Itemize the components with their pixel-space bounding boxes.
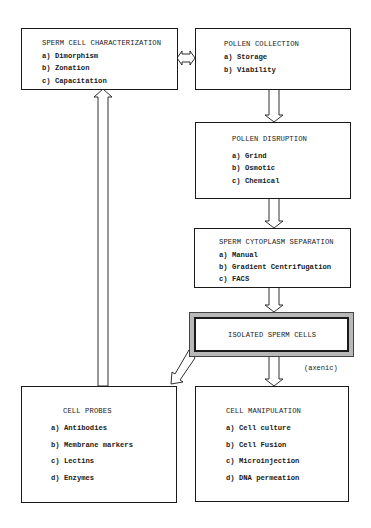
- list-item: a) Cell culture: [226, 424, 291, 432]
- cell-manipulation-box: CELL MANIPULATION a) Cell culture b) Cel…: [195, 386, 349, 502]
- list-item: a) Storage: [224, 53, 267, 61]
- list-item: b) Viability: [224, 66, 276, 74]
- list-item: c) Microinjection: [226, 457, 299, 465]
- down-arrow-icon: [265, 89, 283, 122]
- isolated-sperm-cells-frame: ISOLATED SPERM CELLS: [189, 312, 354, 357]
- box-title: POLLEN COLLECTION: [224, 40, 299, 48]
- list-item: b) Gradient Centrifugation: [219, 263, 331, 271]
- box-title: CELL PROBES: [63, 407, 112, 415]
- list-item: b) Osmotic: [232, 164, 275, 172]
- down-arrow-icon: [265, 198, 283, 228]
- list-item: d) DNA permeation: [226, 474, 299, 482]
- list-item: c) Lectins: [51, 457, 94, 465]
- sperm-cell-characterization-box: SPERM CELL CHARACTERIZATION a) Dimorphis…: [21, 28, 178, 90]
- sperm-cytoplasm-separation-box: SPERM CYTOPLASM SEPARATION a) Manual b) …: [194, 228, 351, 288]
- list-item: c) Chemical: [232, 177, 279, 185]
- list-item: c) FACS: [219, 275, 249, 283]
- list-item: d) Enzymes: [51, 474, 94, 482]
- box-title: SPERM CELL CHARACTERIZATION: [42, 39, 161, 47]
- list-item: a) Grind: [232, 152, 267, 160]
- isolated-sperm-cells-box: ISOLATED SPERM CELLS: [194, 317, 349, 352]
- list-item: b) Membrane markers: [51, 441, 133, 449]
- list-item: a) Antibodies: [51, 424, 107, 432]
- axenic-label: (axenic): [304, 364, 338, 372]
- down-arrow-icon: [265, 356, 283, 386]
- box-title: SPERM CYTOPLASM SEPARATION: [219, 238, 334, 246]
- list-item: b) Zonation: [42, 64, 89, 72]
- bidirectional-arrow-icon: [177, 51, 195, 65]
- box-title: CELL MANIPULATION: [226, 407, 301, 415]
- list-item: b) Cell Fusion: [226, 441, 286, 449]
- down-arrow-icon: [265, 287, 283, 312]
- pollen-collection-box: POLLEN COLLECTION a) Storage b) Viabilit…: [195, 28, 351, 90]
- up-arrow-icon: [94, 89, 112, 386]
- cell-probes-box: CELL PROBES a) Antibodies b) Membrane ma…: [21, 386, 177, 503]
- list-item: a) Manual: [219, 251, 258, 259]
- box-title: ISOLATED SPERM CELLS: [228, 331, 316, 339]
- list-item: c) Capacitation: [42, 77, 107, 85]
- box-title: POLLEN DISRUPTION: [232, 135, 307, 143]
- list-item: a) Dimorphism: [42, 52, 98, 60]
- pollen-disruption-box: POLLEN DISRUPTION a) Grind b) Osmotic c)…: [195, 122, 351, 199]
